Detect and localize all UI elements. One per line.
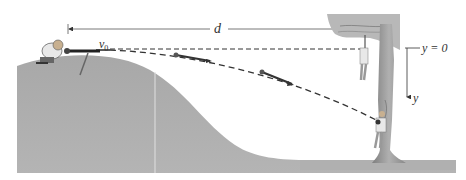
monkey-hanging xyxy=(360,35,368,80)
projectile-diagram: d v0 y = 0 y xyxy=(0,0,466,180)
dart-in-flight-2 xyxy=(260,70,295,87)
distance-label: d xyxy=(214,22,221,36)
initial-velocity-subscript: 0 xyxy=(104,44,108,53)
diagram-canvas xyxy=(0,0,466,180)
y-axis-label: y xyxy=(413,92,418,104)
y-axis-arrow xyxy=(405,48,420,97)
y-origin-label: y = 0 xyxy=(422,42,447,54)
dart-in-flight-1 xyxy=(174,53,213,64)
initial-velocity-label: v0 xyxy=(99,38,108,53)
